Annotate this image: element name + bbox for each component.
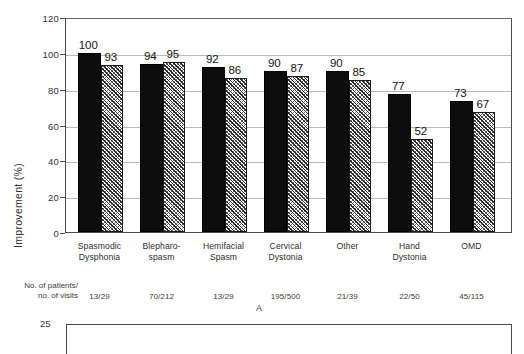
- category-label-line: Spasmodic: [78, 241, 121, 251]
- bar-value-label: 77: [383, 80, 414, 92]
- y-tick-label: 120: [29, 13, 59, 24]
- y-axis-label: Improvement (%): [12, 88, 24, 248]
- category-label: HemifacialSpasm: [193, 241, 255, 262]
- bar-value-label: 100: [73, 39, 104, 51]
- category-label-line: Hand: [399, 241, 420, 251]
- bar-value-label: 95: [158, 48, 189, 60]
- y-tick-mark: [60, 233, 65, 234]
- bar-solid: [140, 64, 163, 232]
- bar-value-label: 86: [220, 64, 251, 76]
- category-label-line: OMD: [461, 241, 481, 251]
- category-label: SpasmodicDysphonia: [69, 241, 131, 262]
- y-tick-label: 60: [29, 120, 59, 131]
- bar-hatched: [163, 62, 186, 232]
- y-tick-label: 0: [29, 228, 59, 239]
- y-tick-label: 80: [29, 84, 59, 95]
- y-tick-label: 40: [29, 156, 59, 167]
- bar-value-label: 52: [406, 125, 437, 137]
- category-label-line: Blepharo-: [142, 241, 180, 251]
- y-tick-label: 20: [29, 192, 59, 203]
- category-label: Other: [317, 241, 379, 252]
- category-label-line: Dystonia: [392, 252, 426, 262]
- category-label-line: Dysphonia: [79, 252, 121, 262]
- n-value: 13/29: [69, 292, 131, 301]
- bar-solid: [388, 94, 411, 232]
- category-label-line: spasm: [149, 252, 175, 262]
- category-label-line: Dystonia: [268, 252, 302, 262]
- n-value: 21/39: [317, 292, 379, 301]
- category-label-line: Hemifacial: [203, 241, 244, 251]
- n-value: 22/50: [379, 292, 441, 301]
- bar-value-label: 85: [344, 66, 375, 78]
- category-label-line: Other: [337, 241, 359, 251]
- category-label: OMD: [441, 241, 503, 252]
- bar-hatched: [349, 80, 372, 232]
- bar-solid: [326, 71, 349, 232]
- n-value: 45/115: [441, 292, 503, 301]
- n-row-title: No. of patients/ no. of visits: [2, 281, 78, 301]
- n-value: 195/500: [255, 292, 317, 301]
- category-label: HandDystonia: [379, 241, 441, 262]
- n-row-title-line1: No. of patients/: [24, 281, 78, 290]
- bar-hatched: [225, 78, 248, 232]
- bar-solid: [202, 67, 225, 232]
- category-label-line: Spasm: [210, 252, 237, 262]
- bar-solid: [264, 71, 287, 232]
- category-label: Blepharo-spasm: [131, 241, 193, 262]
- plot-area: [65, 18, 512, 233]
- bar-solid: [450, 101, 473, 232]
- bar-hatched: [101, 65, 124, 232]
- next-panel-ytick-label: 25: [40, 318, 51, 329]
- next-panel-frame: [66, 324, 512, 354]
- y-tick-label: 100: [29, 48, 59, 59]
- category-label-line: Cervical: [270, 241, 302, 251]
- bar-hatched: [473, 112, 496, 232]
- bar-value-label: 87: [282, 62, 313, 74]
- bar-hatched: [287, 76, 310, 232]
- bar-solid: [78, 53, 101, 232]
- panel-letter: A: [256, 303, 262, 313]
- n-value: 70/212: [131, 292, 193, 301]
- bar-series-container: [66, 19, 511, 232]
- n-value: 13/29: [193, 292, 255, 301]
- bar-value-label: 93: [96, 51, 127, 63]
- bar-value-label: 67: [468, 98, 499, 110]
- category-label: CervicalDystonia: [255, 241, 317, 262]
- bar-hatched: [411, 139, 434, 232]
